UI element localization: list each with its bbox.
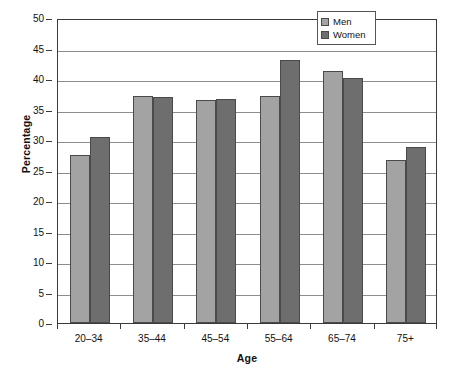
y-axis-tick-label: 5 <box>38 289 44 299</box>
legend: Men Women <box>317 11 376 45</box>
y-axis-tick-mark <box>46 50 52 51</box>
y-axis-tick-mark <box>46 172 52 173</box>
bar-men-20–34 <box>70 155 90 323</box>
bar-men-65–74 <box>323 71 343 323</box>
y-axis-tick-label: 30 <box>33 136 44 146</box>
bar-women-35–44 <box>153 97 173 323</box>
y-axis-tick-label: 0 <box>38 319 44 329</box>
x-axis-tick-label: 65–74 <box>328 333 356 345</box>
y-axis-tick-label: 15 <box>33 228 44 238</box>
x-axis-tick-label: 75+ <box>397 333 414 345</box>
x-axis-tick-mark <box>247 324 248 329</box>
x-axis-tick-mark <box>310 324 311 329</box>
y-axis-tick-label: 25 <box>33 167 44 177</box>
x-axis-tick-mark <box>184 324 185 329</box>
x-axis-tick-marks <box>57 324 437 332</box>
x-axis-tick-mark <box>436 324 437 329</box>
y-axis-tick-mark <box>46 202 52 203</box>
y-axis-tick-mark <box>46 294 52 295</box>
legend-label-men: Men <box>333 17 351 27</box>
y-axis-tick-mark <box>46 324 52 325</box>
x-axis-tick-mark <box>120 324 121 329</box>
y-axis-tick-label: 20 <box>33 197 44 207</box>
y-axis-tick-mark <box>46 141 52 142</box>
y-axis-tick-label: 45 <box>33 45 44 55</box>
bar-women-75+ <box>406 147 426 323</box>
legend-swatch-men-icon <box>321 18 329 26</box>
y-axis-tick-label: 50 <box>33 14 44 24</box>
x-axis-tick-mark <box>57 324 58 329</box>
legend-item-men: Men <box>321 15 371 28</box>
y-axis-tick-mark <box>46 80 52 81</box>
y-axis-tick-label: 35 <box>33 106 44 116</box>
bar-chart-figure: 05101520253035404550 Percentage 20–3435–… <box>0 0 465 383</box>
legend-label-women: Women <box>333 30 366 40</box>
y-axis-tick-mark <box>46 233 52 234</box>
x-axis-tick-label: 35–44 <box>138 333 166 345</box>
y-axis-tick-mark <box>46 263 52 264</box>
bar-men-75+ <box>386 160 406 323</box>
bars-layer <box>58 20 436 323</box>
y-axis-tick-label: 40 <box>33 75 44 85</box>
bar-men-35–44 <box>133 96 153 323</box>
y-axis-tick-mark <box>46 111 52 112</box>
bar-women-55–64 <box>280 60 300 323</box>
bar-women-65–74 <box>343 78 363 323</box>
plot-area <box>57 19 437 324</box>
y-axis-title: Percentage <box>20 99 32 189</box>
bar-men-55–64 <box>260 96 280 323</box>
x-axis-tick-mark <box>374 324 375 329</box>
y-axis: 05101520253035404550 <box>0 0 57 383</box>
y-axis-tick-mark <box>46 19 52 20</box>
bar-women-20–34 <box>90 137 110 323</box>
x-axis-title: Age <box>57 352 437 364</box>
bar-men-45–54 <box>196 100 216 323</box>
x-axis-labels: 20–3435–4445–5455–6465–7475+ <box>57 333 437 349</box>
legend-item-women: Women <box>321 28 371 41</box>
x-axis-tick-label: 20–34 <box>75 333 103 345</box>
y-axis-tick-label: 10 <box>33 258 44 268</box>
x-axis-tick-label: 55–64 <box>265 333 293 345</box>
bar-women-45–54 <box>216 99 236 323</box>
x-axis-tick-label: 45–54 <box>201 333 229 345</box>
legend-swatch-women-icon <box>321 31 329 39</box>
